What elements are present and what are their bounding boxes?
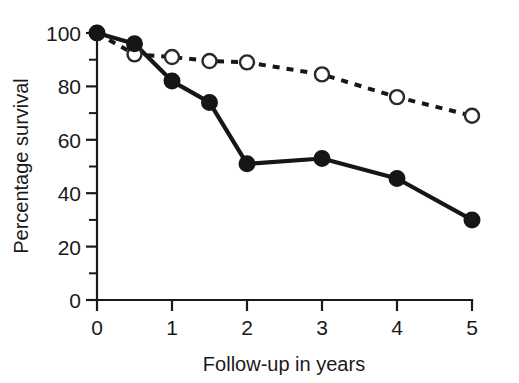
y-tick-label: 0 — [69, 289, 81, 312]
x-tick-label: 3 — [316, 316, 328, 339]
data-point-filled-circle — [240, 156, 255, 171]
y-tick-label: 100 — [46, 22, 81, 45]
data-point-open-circle — [203, 54, 217, 68]
x-tick-label: 0 — [91, 316, 103, 339]
data-point-filled-circle — [127, 36, 142, 51]
data-point-filled-circle — [90, 26, 105, 41]
y-axis-label: Percentage survival — [10, 78, 32, 254]
data-point-open-circle — [240, 55, 254, 69]
data-point-filled-circle — [390, 171, 405, 186]
survival-curve-chart: 020406080100 012345 Follow-up in years P… — [0, 0, 519, 383]
x-axis-label: Follow-up in years — [203, 353, 365, 375]
data-point-open-circle — [390, 90, 404, 104]
data-point-filled-circle — [315, 151, 330, 166]
x-tick-label: 5 — [466, 316, 478, 339]
data-point-open-circle — [165, 50, 179, 64]
y-tick-label: 40 — [58, 182, 81, 205]
x-tick-label: 1 — [166, 316, 178, 339]
y-tick-label: 20 — [58, 236, 81, 259]
y-tick-label: 80 — [58, 75, 81, 98]
data-point-filled-circle — [465, 212, 480, 227]
y-tick-label: 60 — [58, 129, 81, 152]
x-tick-label: 4 — [391, 316, 403, 339]
data-point-filled-circle — [165, 74, 180, 89]
data-point-open-circle — [315, 67, 329, 81]
data-point-open-circle — [465, 109, 479, 123]
data-point-filled-circle — [202, 95, 217, 110]
x-tick-label: 2 — [241, 316, 253, 339]
